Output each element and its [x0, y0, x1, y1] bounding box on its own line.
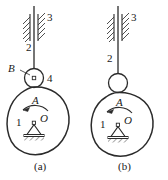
label-guide-b: 3: [131, 11, 137, 23]
pin-support-a: [24, 121, 44, 140]
support-triangle-b: [111, 127, 125, 137]
roller-circle-b: [109, 74, 128, 93]
label-link-4: 4: [47, 72, 53, 84]
roller-pin-joint-b: [32, 76, 35, 79]
ground-line-a: [24, 135, 44, 137]
ground-line-b: [108, 137, 128, 139]
label-motion-b: A: [115, 96, 123, 108]
ground-hatch-b: [108, 139, 128, 143]
kinematic-diagram-svg: 3 2 B 4 1 O A: [0, 0, 168, 180]
label-pivot-o-b: O: [124, 114, 132, 126]
panel-a: 3 2 B 4 1 O A: [7, 6, 69, 155]
caption-panel-b: (b): [118, 160, 131, 172]
rotation-arrow-b: [107, 107, 132, 113]
label-rod-b: 2: [107, 52, 113, 64]
guide-hatch-left-b: [107, 17, 114, 42]
rotation-arrow-a: [23, 105, 48, 111]
ground-hatch-a: [24, 137, 44, 141]
pin-support-b: [108, 123, 128, 142]
guide-hatch-right-b: [122, 13, 129, 40]
label-pivot-o-a: O: [40, 112, 48, 124]
panel-b: 3 2 1 O A: [91, 6, 153, 156]
guide-hatch-right-a: [38, 13, 45, 40]
caption-panel-a: (a): [34, 160, 46, 172]
label-body-link-a: 1: [16, 116, 22, 128]
label-guide-a: 3: [47, 11, 53, 23]
support-triangle-a: [27, 125, 41, 135]
figure-canvas: 3 2 B 4 1 O A: [0, 0, 168, 180]
label-point-b: B: [8, 62, 15, 74]
label-body-link-b: 1: [100, 118, 106, 130]
guide-hatch-left-a: [23, 17, 30, 42]
label-motion-a: A: [31, 94, 39, 106]
label-rod-a: 2: [26, 41, 32, 53]
